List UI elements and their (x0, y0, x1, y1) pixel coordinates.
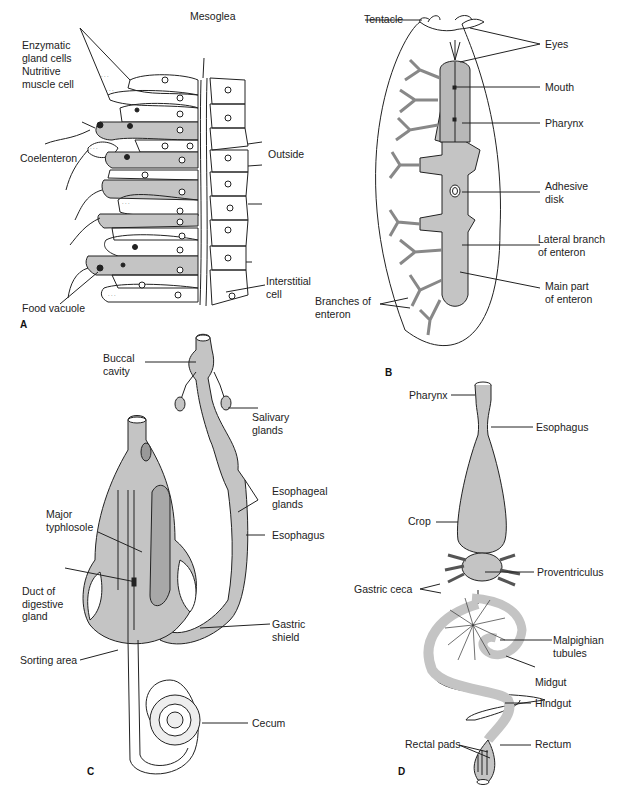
label-sorting-area: Sorting area (20, 654, 77, 667)
label-interstitial-cell: Interstitial cell (266, 275, 311, 300)
label-rectal-pads: Rectal pads (405, 738, 460, 751)
label-hindgut: Hindgut (535, 697, 571, 710)
panel-d-insect (420, 382, 552, 785)
label-buccal-cavity: Buccal cavity (103, 352, 135, 377)
panel-letter-c: C (87, 766, 94, 777)
label-cecum: Cecum (252, 717, 285, 730)
panel-a-cells: · · · · · · · · · · · · · · · (45, 28, 265, 306)
label-crop: Crop (408, 515, 431, 528)
label-esophagus-c: Esophagus (272, 529, 325, 542)
label-adhesive-disk: Adhesive disk (545, 180, 588, 205)
label-lateral-branch: Lateral branch of enteron (538, 233, 605, 258)
label-nutritive-muscle-cell: Nutritive muscle cell (22, 65, 74, 90)
svg-text:· · ·: · · · (122, 200, 130, 206)
label-coelenteron: Coelenteron (20, 152, 77, 165)
panel-letter-d: D (398, 766, 405, 777)
label-esophageal-glands: Esophageal glands (272, 485, 327, 510)
label-malpighian-tubules: Malpighian tubules (553, 634, 604, 659)
label-rectum: Rectum (535, 738, 571, 751)
label-pharynx-b: Pharynx (545, 117, 584, 130)
label-gastric-ceca: Gastric ceca (354, 583, 412, 596)
label-pharynx-d: Pharynx (409, 389, 448, 402)
label-outside: Outside (268, 148, 304, 161)
label-midgut: Midgut (535, 676, 567, 689)
label-mesoglea: Mesoglea (190, 10, 236, 23)
label-enzymatic-gland-cells: Enzymatic gland cells (22, 39, 72, 64)
label-esophagus-d: Esophagus (536, 421, 589, 434)
panel-letter-a: A (20, 319, 27, 330)
svg-text:· · ·: · · · (101, 73, 109, 79)
panel-b-planarian (365, 16, 540, 346)
label-gastric-shield: Gastric shield (272, 618, 305, 643)
label-mouth: Mouth (545, 81, 574, 94)
label-branches-enteron: Branches of enteron (315, 295, 371, 320)
label-salivary-glands: Salivary glands (252, 411, 289, 436)
panel-letter-b: B (385, 367, 392, 378)
label-proventriculus: Proventriculus (537, 566, 604, 579)
label-main-enteron: Main part of enteron (545, 280, 592, 305)
diagram-artwork: · · · · · · · · · · · · · · · (0, 0, 624, 793)
label-eyes: Eyes (545, 38, 568, 51)
panel-c-mollusc (65, 334, 270, 774)
label-tentacle: Tentacle (364, 13, 403, 26)
svg-text:· · ·: · · · (90, 145, 98, 151)
svg-text:· · ·: · · · (108, 292, 116, 298)
label-duct-digestive-gland: Duct of digestive gland (22, 585, 63, 623)
label-food-vacuole: Food vacuole (22, 302, 85, 315)
label-major-typhlosole: Major typhlosole (46, 508, 93, 533)
